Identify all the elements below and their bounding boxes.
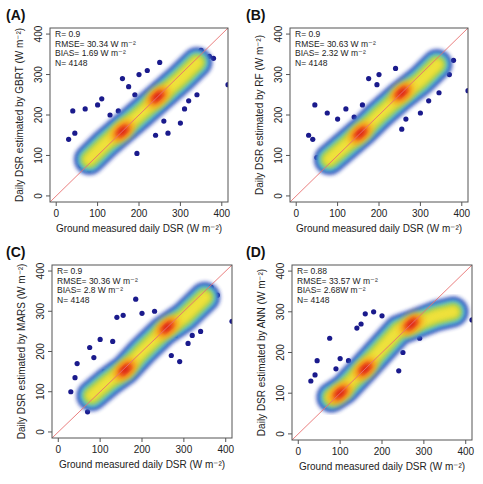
y-tick-label: 300 [35, 302, 46, 319]
y-axis: 0100200300400Daily DSR estimated by GBRT… [14, 25, 50, 202]
y-tick-label: 0 [275, 431, 286, 437]
x-axis: 0100200300400Ground measured daily DSR (… [295, 440, 474, 472]
stat-rmse: RMSE= 30.63 W m⁻² [295, 39, 376, 49]
y-tick-label: 0 [273, 193, 284, 199]
stat-n: N= 4148 [55, 58, 88, 68]
panel-label: (D) [246, 244, 265, 260]
scatter-figure-canvas: (A)0100200300400Ground measured daily DS… [0, 0, 483, 484]
x-tick-label: 300 [412, 208, 429, 219]
y-tick-label: 100 [275, 384, 286, 401]
x-tick-label: 100 [332, 446, 349, 457]
stat-n: N= 4148 [57, 295, 90, 305]
x-tick-label: 300 [172, 208, 189, 219]
panel-mars: (C)0100200300400Ground measured daily DS… [6, 244, 235, 470]
x-tick-label: 400 [457, 446, 474, 457]
y-tick-label: 0 [33, 193, 44, 199]
stat-rmse: RMSE= 33.57 W m⁻² [297, 276, 378, 286]
y-axis: 0100200300400Daily DSR estimated by RF (… [254, 25, 290, 198]
stat-r: R= 0.9 [55, 29, 81, 39]
stat-rmse: RMSE= 30.36 W m⁻² [57, 276, 138, 286]
stat-n: N= 4148 [297, 295, 330, 305]
x-tick-label: 100 [92, 444, 109, 455]
y-tick-label: 300 [33, 66, 44, 83]
panel-label: (B) [246, 7, 265, 23]
y-tick-label: 300 [273, 66, 284, 83]
y-axis-label: Daily DSR estimated by GBRT (W m⁻²) [14, 28, 25, 202]
x-axis-label: Ground measured daily DSR (W m⁻²) [299, 461, 465, 472]
y-axis-label: Daily DSR estimated by RF (W m⁻²) [254, 35, 265, 195]
panel-ann: (D)0100200300400Ground measured daily DS… [246, 244, 475, 472]
stat-bias: BIAS= 2.32 W m⁻² [295, 48, 366, 58]
y-axis-label: Daily DSR estimated by ANN (W m⁻²) [256, 269, 267, 436]
stats-annotation: R= 0.88RMSE= 33.57 W m⁻²BIAS= 2.68W m⁻²N… [297, 266, 378, 305]
y-tick-label: 300 [275, 303, 286, 320]
x-axis-label: Ground measured daily DSR (W m⁻²) [59, 459, 225, 470]
x-tick-label: 0 [295, 446, 301, 457]
y-tick-label: 200 [275, 344, 286, 361]
x-tick-label: 200 [371, 208, 388, 219]
stat-r: R= 0.88 [297, 266, 327, 276]
stat-r: R= 0.9 [295, 29, 321, 39]
figure: (A)0100200300400Ground measured daily DS… [0, 0, 483, 484]
stat-n: N= 4148 [295, 58, 328, 68]
density-cloud [92, 297, 205, 396]
x-tick-label: 0 [55, 444, 61, 455]
x-tick-label: 200 [131, 208, 148, 219]
stats-annotation: R= 0.9RMSE= 30.34 W m⁻²BIAS= 1.69 W m⁻²N… [55, 29, 136, 68]
x-tick-label: 400 [453, 208, 470, 219]
stat-bias: BIAS= 2.68W m⁻² [297, 285, 366, 295]
density-cloud [324, 308, 453, 409]
stats-annotation: R= 0.9RMSE= 30.36 W m⁻²BIAS= 2.8 W m⁻²N=… [57, 266, 138, 305]
panel-gbrt: (A)0100200300400Ground measured daily DS… [6, 7, 231, 234]
y-axis: 0100200300400Daily DSR estimated by ANN … [256, 262, 292, 436]
x-tick-label: 400 [213, 208, 230, 219]
panel-label: (A) [6, 7, 25, 23]
x-tick-label: 100 [89, 208, 106, 219]
x-tick-label: 0 [53, 208, 59, 219]
stats-annotation: R= 0.9RMSE= 30.63 W m⁻²BIAS= 2.32 W m⁻²N… [295, 29, 376, 68]
y-tick-label: 100 [273, 147, 284, 164]
x-tick-label: 200 [134, 444, 151, 455]
x-axis-label: Ground measured daily DSR (W m⁻²) [296, 223, 462, 234]
y-axis: 0100200300400Daily DSR estimated by MARS… [16, 262, 52, 439]
x-tick-label: 0 [293, 208, 299, 219]
y-tick-label: 400 [275, 262, 286, 279]
stat-bias: BIAS= 1.69 W m⁻² [55, 48, 126, 58]
y-tick-label: 200 [35, 343, 46, 360]
x-axis: 0100200300400Ground measured daily DSR (… [53, 202, 230, 234]
y-tick-label: 100 [33, 147, 44, 164]
x-tick-label: 100 [329, 208, 346, 219]
stat-bias: BIAS= 2.8 W m⁻² [57, 285, 123, 295]
stat-r: R= 0.9 [57, 266, 83, 276]
y-tick-label: 100 [35, 383, 46, 400]
y-tick-label: 200 [273, 106, 284, 123]
y-tick-label: 400 [35, 262, 46, 279]
y-tick-label: 200 [33, 106, 44, 123]
panel-label: (C) [6, 244, 25, 260]
x-tick-label: 200 [374, 446, 391, 457]
y-tick-label: 0 [35, 429, 46, 435]
x-axis-label: Ground measured daily DSR (W m⁻²) [56, 223, 222, 234]
x-axis: 0100200300400Ground measured daily DSR (… [293, 202, 470, 234]
x-tick-label: 300 [176, 444, 193, 455]
y-axis-label: Daily DSR estimated by MARS (W m⁻²) [16, 264, 27, 440]
x-axis: 0100200300400Ground measured daily DSR (… [55, 438, 234, 470]
y-tick-label: 400 [273, 25, 284, 42]
x-tick-label: 300 [416, 446, 433, 457]
x-tick-label: 400 [217, 444, 234, 455]
y-tick-label: 400 [33, 25, 44, 42]
panel-rf: (B)0100200300400Ground measured daily DS… [246, 7, 471, 234]
stat-rmse: RMSE= 30.34 W m⁻² [55, 39, 136, 49]
